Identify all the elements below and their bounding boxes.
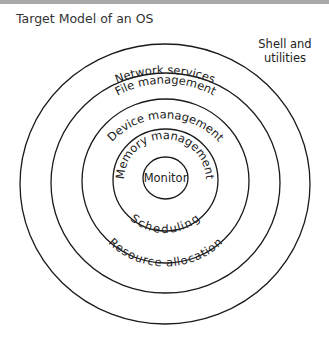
label-scheduling: Scheduling (128, 211, 202, 236)
label-shell-line2: utilities (264, 51, 306, 65)
label-monitor: Monitor (144, 171, 188, 185)
label-shell-line1: Shell and (258, 37, 311, 51)
os-model-diagram: Network services File management Device … (0, 0, 329, 337)
label-resource-allocation: Resource allocation (106, 235, 225, 270)
